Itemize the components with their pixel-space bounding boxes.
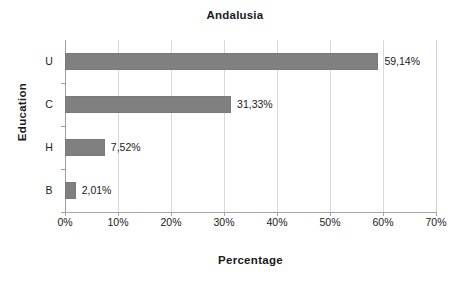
y-axis-title: Education <box>16 42 28 182</box>
bar-value-label: 2,01% <box>82 182 112 199</box>
category-tick <box>61 83 65 84</box>
x-axis-tick-labels: 0%10%20%30%40%50%60%70% <box>65 216 436 232</box>
category-label-U: U <box>39 53 59 70</box>
bar-value-label: 59,14% <box>384 53 420 70</box>
x-tick-label: 20% <box>160 216 181 228</box>
x-tick-mark <box>383 212 384 216</box>
x-tick-label: 60% <box>372 216 393 228</box>
x-tick-label: 10% <box>107 216 128 228</box>
category-label-H: H <box>39 139 59 156</box>
category-label-B: B <box>39 182 59 199</box>
x-tick-mark <box>436 212 437 216</box>
x-tick-mark <box>224 212 225 216</box>
bar-value-label: 7,52% <box>111 139 141 156</box>
bar-H <box>65 139 105 156</box>
bar-U <box>65 53 378 70</box>
bar-B <box>65 182 76 199</box>
x-axis-line <box>65 212 437 213</box>
category-tick <box>61 126 65 127</box>
x-tick-mark <box>330 212 331 216</box>
gridline-70% <box>436 40 437 212</box>
category-label-C: C <box>39 96 59 113</box>
x-tick-label: 70% <box>425 216 446 228</box>
bar-C <box>65 96 231 113</box>
x-axis-title: Percentage <box>65 254 436 266</box>
chart-title: Andalusia <box>0 9 470 21</box>
bar-value-label: 31,33% <box>237 96 273 113</box>
x-tick-label: 40% <box>266 216 287 228</box>
category-tick <box>61 169 65 170</box>
x-tick-mark <box>118 212 119 216</box>
bar-chart-andalusia: Andalusia 59,14%31,33%7,52%2,01% UCHB 0%… <box>0 0 470 281</box>
x-tick-label: 50% <box>319 216 340 228</box>
category-axis-labels: UCHB <box>33 40 59 212</box>
x-tick-mark <box>277 212 278 216</box>
x-tick-mark <box>65 212 66 216</box>
x-tick-label: 30% <box>213 216 234 228</box>
x-tick-mark <box>171 212 172 216</box>
x-tick-label: 0% <box>57 216 72 228</box>
